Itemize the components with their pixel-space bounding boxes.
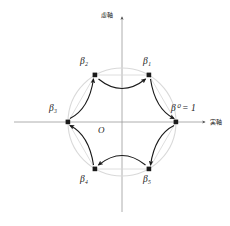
point-label-beta2: β₂ [80, 57, 88, 67]
point-label-beta0: β⁰ = 1 [171, 104, 196, 114]
point-label-beta5: β₅ [143, 175, 151, 185]
point-label-beta4: β₄ [80, 175, 88, 185]
point-label-beta3: β₃ [49, 104, 57, 114]
point-label-beta1: β₁ [143, 57, 151, 67]
imaginary-axis-label: 虚軸 [101, 12, 113, 18]
real-axis-label: 実軸 [210, 119, 222, 125]
complex-plane-figure: 虚軸 実軸 O β⁰ = 1 β₁ β₂ β₃ β₄ β₅ [0, 0, 230, 226]
point-beta3 [66, 120, 71, 125]
point-beta2 [93, 73, 98, 78]
point-beta0 [174, 120, 179, 125]
point-beta4 [93, 167, 98, 172]
axis-group [14, 17, 205, 212]
point-beta5 [147, 167, 152, 172]
origin-label: O [98, 126, 105, 135]
point-beta1 [147, 73, 152, 78]
